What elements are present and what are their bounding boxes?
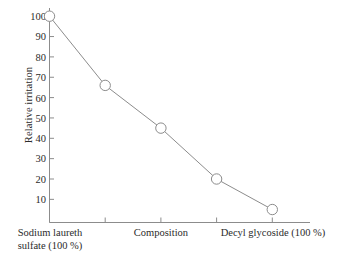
data-point-marker — [44, 11, 54, 21]
x-axis-tick-marks — [50, 218, 273, 223]
data-point-marker — [156, 123, 166, 133]
plot-area — [0, 0, 339, 262]
y-axis-tick-marks — [50, 16, 55, 199]
x-axis-label-left: Sodium laureth sulfate (100 %) — [2, 227, 98, 252]
data-line-series — [50, 16, 273, 209]
data-point-marker — [211, 174, 221, 184]
data-point-marker — [100, 80, 110, 90]
data-point-marker — [267, 204, 277, 214]
axis-lines — [50, 8, 311, 223]
x-axis-label-right: Decyl glycoside (100 %) — [208, 227, 338, 240]
chart-figure: Relative irritation 100 90 80 70 60 50 4… — [0, 0, 339, 262]
x-axis-label-middle: Composition — [114, 227, 208, 240]
data-point-markers — [44, 11, 277, 215]
